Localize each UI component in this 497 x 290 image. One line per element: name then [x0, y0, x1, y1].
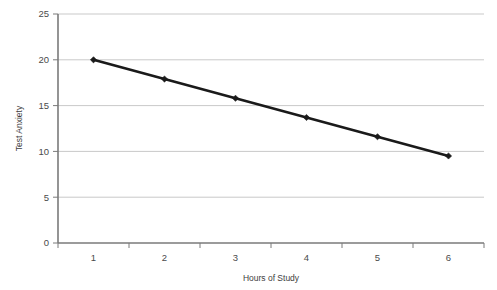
y-tick-label: 5 [44, 192, 49, 203]
y-tick-label: 0 [44, 237, 49, 248]
chart-background [0, 0, 497, 290]
x-tick-label: 2 [162, 252, 167, 263]
line-chart: 0510152025 123456 Test Anxiety Hours of … [0, 0, 497, 290]
y-tick-label: 10 [38, 146, 49, 157]
y-axis-title: Test Anxiety [14, 105, 24, 151]
x-tick-label: 4 [304, 252, 309, 263]
y-tick-label: 25 [38, 8, 49, 19]
x-tick-label: 3 [233, 252, 238, 263]
x-tick-label: 5 [375, 252, 380, 263]
x-tick-label: 6 [446, 252, 451, 263]
cut-off-title [60, 0, 360, 3]
x-tick-label: 1 [91, 252, 96, 263]
y-tick-label: 15 [38, 100, 49, 111]
chart-canvas: 0510152025 123456 Test Anxiety Hours of … [0, 0, 497, 290]
y-tick-label: 20 [38, 54, 49, 65]
x-axis-title: Hours of Study [243, 273, 300, 283]
